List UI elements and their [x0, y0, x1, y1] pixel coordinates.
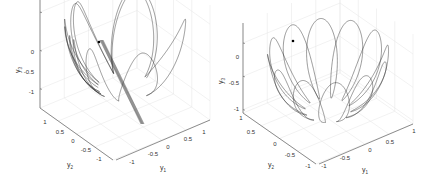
- right-ylabel: y2: [268, 161, 275, 170]
- right-zlabel: y3: [217, 78, 226, 85]
- left-xtick-0: -1: [129, 159, 135, 165]
- left-ztick-2: -1: [29, 89, 35, 95]
- right-xtick-1: -0.5: [340, 155, 351, 161]
- left-ytick-2: 0: [71, 138, 75, 144]
- right-ztick-2: -1: [234, 106, 240, 112]
- right-xtick-3: 0.5: [386, 139, 395, 145]
- right-plot-labels: 0 -0.5 -1 y3 1 0.5 0 -0.5 -1 y2 -1 -0.5 …: [217, 54, 416, 175]
- right-xlabel: y1: [362, 166, 369, 175]
- axis-labels: 0 -0.5 -1 y3 1 0.5 0 -0.5 -1 y2 -1 -0.5 …: [0, 0, 425, 181]
- left-plot-labels: 0 -0.5 -1 y3 1 0.5 0 -0.5 -1 y2 -1 -0.5 …: [14, 49, 206, 173]
- left-ztick-1: -0.5: [24, 69, 35, 75]
- left-xlabel: y1: [160, 164, 167, 173]
- right-ytick-4: -1: [305, 163, 311, 169]
- left-ytick-4: -1: [96, 156, 102, 162]
- left-zlabel: y3: [14, 67, 23, 74]
- left-ylabel: y2: [67, 161, 74, 170]
- right-ytick-3: -0.5: [285, 152, 296, 158]
- left-ytick-1: 0.5: [56, 129, 65, 135]
- left-xtick-4: 1: [202, 129, 206, 135]
- right-xtick-2: 0: [368, 147, 372, 153]
- right-xtick-4: 1: [412, 128, 416, 134]
- right-ztick-1: -0.5: [229, 80, 240, 86]
- left-ytick-3: -0.5: [81, 147, 92, 153]
- left-ytick-0: 1: [43, 119, 47, 125]
- left-xtick-1: -0.5: [148, 151, 159, 157]
- right-xtick-0: -1: [321, 163, 327, 169]
- right-ytick-0: 1: [239, 115, 243, 121]
- right-ytick-1: 0.5: [247, 129, 256, 135]
- right-ytick-2: 0: [273, 141, 277, 147]
- left-xtick-2: 0: [166, 144, 170, 150]
- right-ztick-0: 0: [236, 54, 240, 60]
- left-xtick-3: 0.5: [184, 136, 193, 142]
- left-ztick-0: 0: [31, 49, 35, 55]
